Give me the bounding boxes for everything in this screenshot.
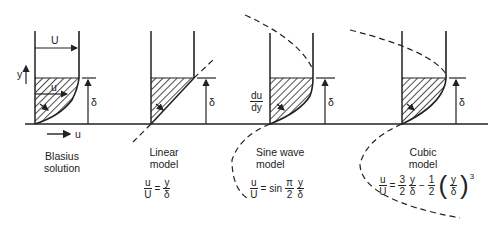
free-stream-U-label: U bbox=[51, 34, 59, 46]
blasius-title: Blasius solution bbox=[32, 150, 92, 174]
blasius-profile bbox=[26, 31, 96, 134]
local-u-label: u bbox=[51, 81, 57, 93]
sine-profile bbox=[232, 15, 335, 200]
blasius-delta-label: δ bbox=[91, 96, 97, 108]
cubic-equation: uU = 32 yδ − 12 ( yδ ) 3 bbox=[379, 172, 474, 198]
y-axis-label: y bbox=[17, 68, 22, 80]
linear-delta-label: δ bbox=[209, 96, 215, 108]
cubic-title: Cubic model bbox=[403, 146, 443, 170]
sine-title: Sine wave model bbox=[256, 146, 316, 170]
slope-du-dy-label: dudy bbox=[250, 90, 263, 113]
linear-profile bbox=[133, 31, 216, 142]
u-axis-label: u bbox=[75, 128, 81, 140]
linear-equation: uU = yδ bbox=[144, 177, 170, 200]
linear-title: Linear model bbox=[139, 146, 189, 170]
sine-delta-label: δ bbox=[328, 96, 334, 108]
cubic-delta-label: δ bbox=[459, 96, 465, 108]
sine-equation: uU = sin π2 yδ bbox=[250, 177, 304, 200]
